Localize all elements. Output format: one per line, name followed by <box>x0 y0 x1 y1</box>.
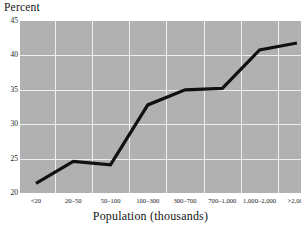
x-tick-label-7: >2,000 <box>288 196 301 205</box>
x-tick-label-1: 20–50 <box>65 196 81 205</box>
y-axis-title: Percent <box>4 1 40 14</box>
y-tick-label-30: 30 <box>0 120 18 128</box>
x-axis-tick-labels: <2020–5050–100100–300300–700700–1,0001,0… <box>20 196 301 210</box>
y-tick-label-40: 40 <box>0 51 18 59</box>
x-axis-title: Population (thousands) <box>0 209 301 224</box>
y-axis-tick-labels: 202530354045 <box>0 21 301 193</box>
x-tick-label-6: 1,000–2,000 <box>243 196 276 205</box>
y-tick-label-25: 25 <box>0 155 18 163</box>
chart-figure: Percent 202530354045 <2020–5050–100100–3… <box>0 0 301 231</box>
y-tick-label-45: 45 <box>0 17 18 25</box>
x-tick-label-3: 100–300 <box>136 196 159 205</box>
x-tick-label-5: 700–1,000 <box>208 196 236 205</box>
y-tick-label-20: 20 <box>0 189 18 197</box>
x-tick-label-0: <20 <box>31 196 41 205</box>
y-tick-label-35: 35 <box>0 86 18 94</box>
x-tick-label-4: 300–700 <box>174 196 197 205</box>
x-tick-label-2: 50–100 <box>101 196 121 205</box>
